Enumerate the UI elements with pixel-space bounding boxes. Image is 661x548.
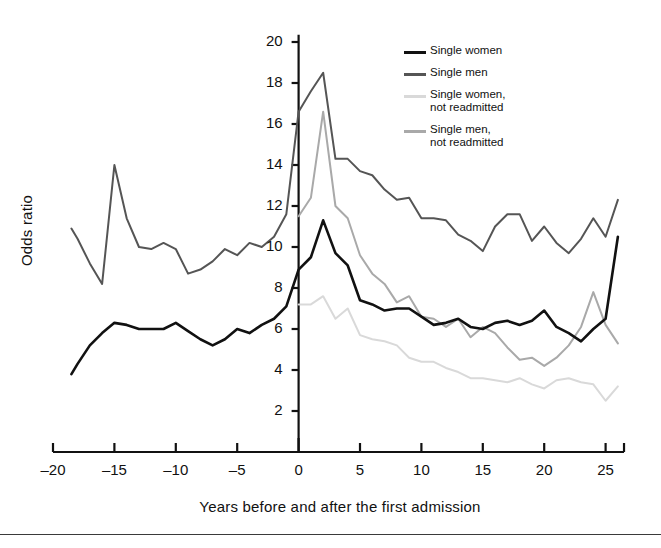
y-tick-label: 16: [249, 114, 283, 131]
legend-swatch: [404, 95, 426, 98]
x-tick-label: 10: [401, 461, 441, 478]
legend-item: Single women: [404, 44, 532, 57]
bottom-divider: [0, 534, 661, 535]
x-tick-label: 25: [586, 461, 626, 478]
legend-item: Single men,not readmitted: [404, 123, 532, 149]
y-tick-label: 8: [249, 278, 283, 295]
series-line: [71, 220, 617, 374]
x-tick-label: –20: [33, 461, 73, 478]
series-line: [299, 296, 618, 401]
x-tick-label: –15: [94, 461, 134, 478]
y-tick-label: 4: [249, 360, 283, 377]
legend-item: Single men: [404, 66, 532, 79]
chart-legend: Single womenSingle menSingle women,not r…: [404, 44, 532, 158]
legend-swatch: [404, 73, 426, 76]
x-axis-title: Years before and after the first admissi…: [100, 498, 580, 515]
x-tick-label: 0: [279, 461, 319, 478]
y-tick-label: 12: [249, 196, 283, 213]
x-tick-label: –5: [217, 461, 257, 478]
axis-group: [53, 35, 624, 452]
y-tick-label: 14: [249, 155, 283, 172]
y-tick-label: 10: [249, 237, 283, 254]
legend-swatch: [404, 51, 426, 54]
x-tick-label: 20: [524, 461, 564, 478]
x-tick-label: 5: [340, 461, 380, 478]
series-group: [71, 73, 617, 401]
legend-label: Single men: [430, 66, 488, 79]
y-tick-label: 18: [249, 73, 283, 90]
y-axis-title: Odds ratio: [18, 171, 35, 291]
chart-figure: Odds ratio Years before and after the fi…: [0, 0, 661, 548]
x-tick-label: 15: [463, 461, 503, 478]
legend-label: Single women: [430, 44, 502, 57]
y-tick-label: 20: [249, 32, 283, 49]
y-tick-label: 2: [249, 401, 283, 418]
x-tick-label: –10: [156, 461, 196, 478]
y-tick-label: 6: [249, 319, 283, 336]
legend-label: Single men,not readmitted: [430, 123, 504, 149]
legend-label: Single women,not readmitted: [430, 88, 505, 114]
series-line: [71, 73, 617, 284]
legend-item: Single women,not readmitted: [404, 88, 532, 114]
legend-swatch: [404, 130, 426, 133]
